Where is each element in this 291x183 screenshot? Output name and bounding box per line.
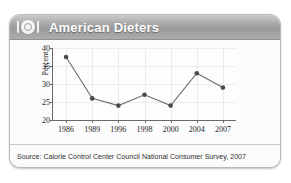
y-tick-mark (50, 120, 53, 121)
chart-card: American Dieters Percent 202530354019861… (9, 14, 281, 168)
data-point-marker (221, 85, 226, 90)
data-point-marker (90, 96, 95, 101)
plot-region: 20253035401986198919961998200020042007 (52, 48, 236, 121)
series-line (66, 57, 223, 106)
y-tick-label: 20 (42, 116, 50, 125)
data-point-marker (116, 103, 121, 108)
data-point-marker (168, 103, 173, 108)
x-tick-mark (171, 120, 172, 123)
x-tick-label: 2004 (189, 125, 205, 134)
x-tick-label: 2000 (163, 125, 179, 134)
x-tick-mark (197, 120, 198, 123)
x-tick-mark (145, 120, 146, 123)
x-tick-label: 1996 (110, 125, 126, 134)
x-tick-label: 1989 (84, 125, 100, 134)
x-tick-label: 1986 (58, 125, 74, 134)
y-tick-label: 25 (42, 98, 50, 107)
dining-plate-icon (17, 20, 39, 34)
x-tick-label: 2007 (215, 125, 231, 134)
plate-icon (21, 20, 35, 34)
fork-icon (17, 21, 19, 33)
data-series-layer (53, 48, 236, 120)
chart-area: Percent 20253035401986198919961998200020… (10, 40, 280, 145)
x-tick-label: 1998 (137, 125, 153, 134)
x-tick-mark (118, 120, 119, 123)
page-title: American Dieters (49, 20, 159, 35)
source-note: Source: Calorie Control Center Council N… (17, 153, 246, 160)
data-point-marker (64, 55, 69, 60)
card-footer: Source: Calorie Control Center Council N… (10, 144, 280, 167)
x-tick-mark (92, 120, 93, 123)
data-point-marker (194, 71, 199, 76)
y-tick-label: 35 (42, 62, 50, 71)
y-tick-label: 40 (42, 44, 50, 53)
data-point-marker (142, 93, 147, 98)
y-tick-label: 30 (42, 80, 50, 89)
card-header: American Dieters (10, 15, 280, 40)
knife-icon (37, 21, 39, 33)
x-tick-mark (66, 120, 67, 123)
x-tick-mark (223, 120, 224, 123)
